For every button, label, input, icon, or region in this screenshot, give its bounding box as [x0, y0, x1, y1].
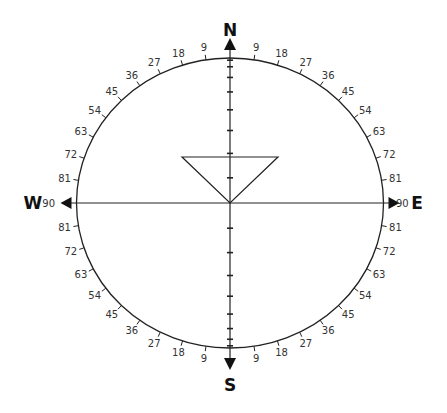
rim-tick	[205, 346, 206, 351]
rim-tick	[354, 288, 358, 291]
east-90-label: 90	[396, 198, 409, 209]
rim-tick	[382, 226, 387, 227]
rim-tick	[254, 346, 255, 351]
rim-tick-label: 36	[322, 325, 335, 336]
rim-tick-label: 63	[75, 269, 88, 280]
rim-tick	[158, 332, 160, 337]
rim-tick-label: 72	[383, 246, 396, 257]
rim-tick	[102, 288, 106, 291]
rim-tick-label: 54	[88, 290, 101, 301]
rim-tick-label: 9	[201, 353, 207, 364]
rim-tick	[89, 269, 93, 271]
rim-tick-label: 45	[105, 86, 118, 97]
rim-tick-label: 63	[373, 269, 386, 280]
west-label: W	[24, 193, 43, 213]
rim-tick	[354, 115, 358, 118]
rim-tick-label: 45	[342, 86, 355, 97]
rim-tick-label: 81	[58, 222, 71, 233]
rim-tick-label: 27	[148, 57, 161, 68]
rim-tick	[137, 82, 140, 86]
rim-tick-label: 45	[105, 309, 118, 320]
rim-tick	[118, 306, 121, 310]
rim-tick	[320, 82, 323, 86]
compass-canvas: 9999181818182727272736363636454545455454…	[0, 0, 447, 413]
rim-tick	[382, 179, 387, 180]
rim-tick-label: 72	[64, 149, 77, 160]
rim-tick	[277, 60, 278, 65]
rim-tick-label: 54	[359, 105, 372, 116]
rim-tick-label: 27	[148, 338, 161, 349]
rim-tick-label: 27	[299, 57, 312, 68]
west-90-label: 90	[42, 198, 55, 209]
rim-tick	[339, 97, 342, 101]
rim-tick-label: 63	[75, 126, 88, 137]
rim-tick	[73, 226, 78, 227]
rim-tick	[376, 157, 381, 159]
rim-tick	[158, 69, 160, 74]
rim-tick-label: 27	[299, 338, 312, 349]
rim-tick-label: 72	[383, 149, 396, 160]
rim-tick-label: 18	[172, 347, 185, 358]
rim-tick-label: 81	[389, 222, 402, 233]
rim-tick	[181, 60, 182, 65]
rim-tick	[89, 135, 93, 137]
rim-tick-label: 36	[125, 325, 138, 336]
rim-tick	[181, 341, 182, 346]
rim-tick-label: 9	[201, 42, 207, 53]
rim-tick-label: 18	[275, 48, 288, 59]
rim-tick-label: 45	[342, 309, 355, 320]
rim-tick-label: 9	[253, 42, 259, 53]
rim-tick-label: 36	[125, 70, 138, 81]
compass-diagram: 9999181818182727272736363636454545455454…	[0, 0, 447, 413]
rim-tick-label: 18	[172, 48, 185, 59]
rim-tick	[254, 55, 255, 60]
rim-tick	[79, 157, 84, 159]
rim-tick-label: 72	[64, 246, 77, 257]
rim-tick-label: 63	[373, 126, 386, 137]
rim-tick	[73, 179, 78, 180]
rim-tick	[367, 135, 371, 137]
rim-tick-label: 18	[275, 347, 288, 358]
rim-tick-label: 54	[88, 105, 101, 116]
rim-tick	[300, 69, 302, 74]
rim-tick	[118, 97, 121, 101]
rim-tick	[205, 55, 206, 60]
rim-tick	[367, 269, 371, 271]
rim-tick-label: 36	[322, 70, 335, 81]
rim-tick-label: 81	[58, 173, 71, 184]
south-arrow-icon	[224, 358, 236, 370]
east-label: E	[411, 193, 423, 213]
rim-tick	[79, 248, 84, 250]
rim-tick-label: 54	[359, 290, 372, 301]
rim-tick	[102, 115, 106, 118]
rim-tick	[376, 248, 381, 250]
rim-tick	[277, 341, 278, 346]
west-arrow-icon	[61, 197, 72, 209]
north-label: N	[223, 20, 237, 40]
south-label: S	[224, 375, 236, 395]
cardinal-labels: N S E W 90 90	[24, 20, 423, 395]
rim-tick-label: 81	[389, 173, 402, 184]
rim-tick	[300, 332, 302, 337]
rim-tick-label: 9	[253, 353, 259, 364]
